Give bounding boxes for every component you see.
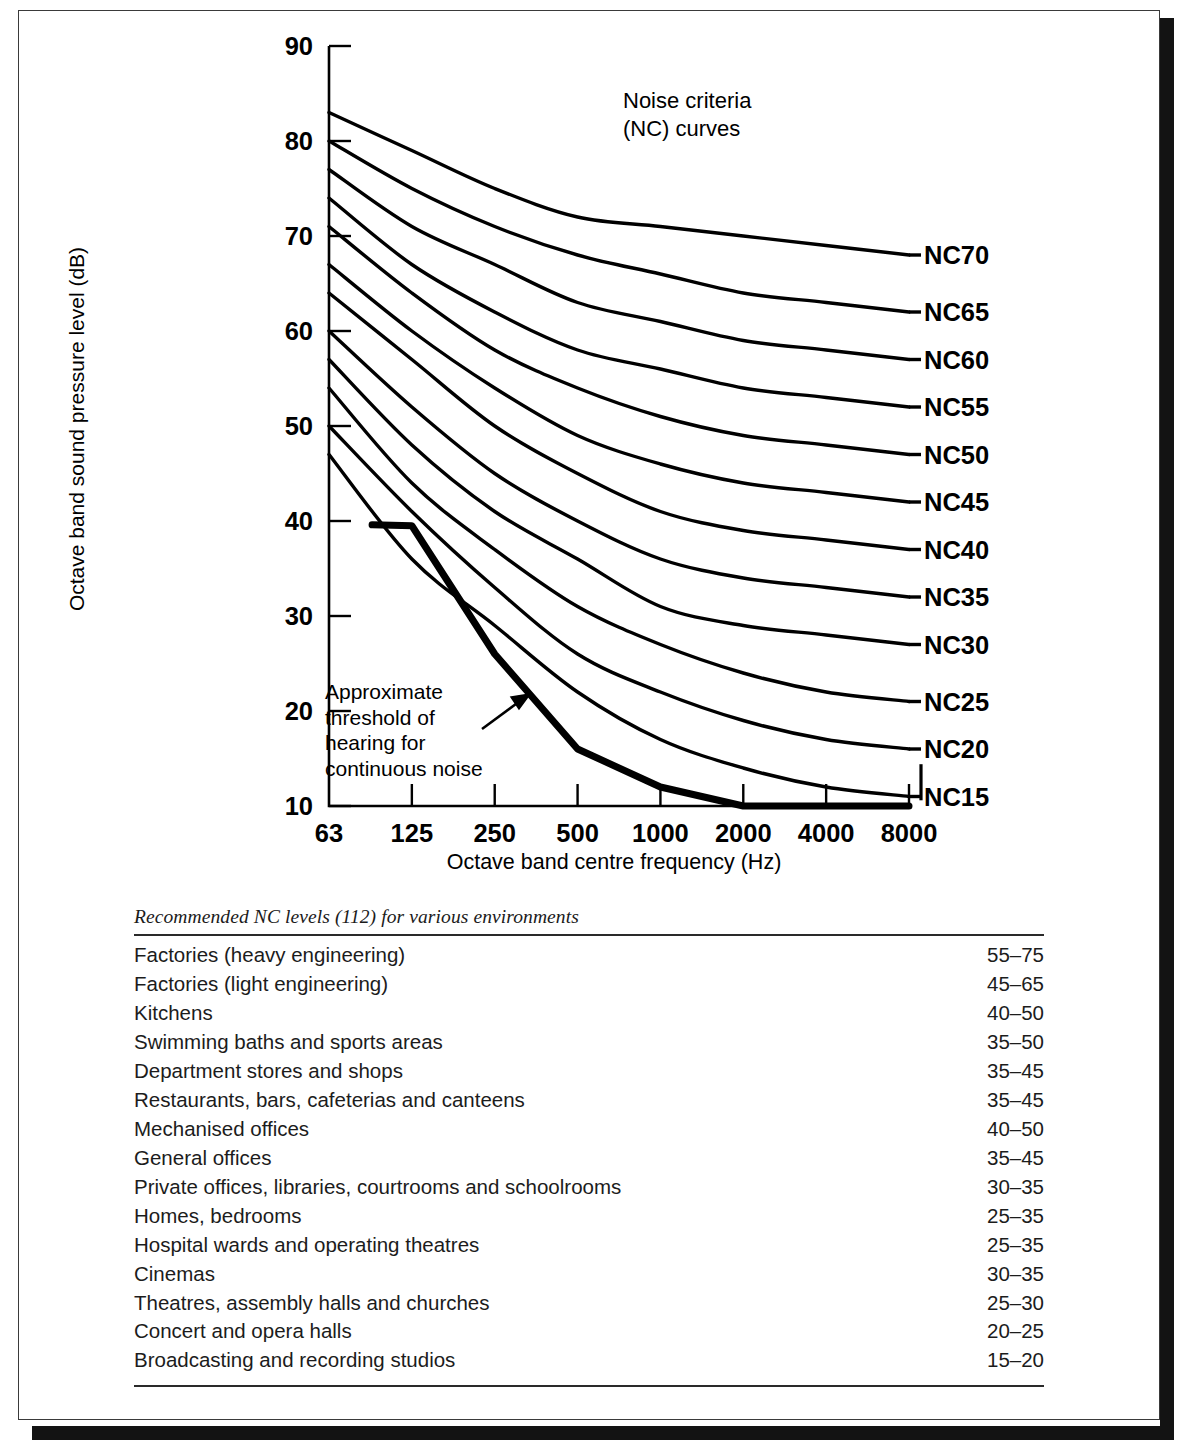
- nc-level-cell: 40–50: [934, 1114, 1044, 1143]
- x-axis-tick-label: 250: [473, 819, 516, 847]
- table-row: Restaurants, bars, cafeterias and cantee…: [134, 1085, 1044, 1114]
- threshold-annotation-line1: Approximate: [325, 679, 483, 705]
- x-axis-tick-label: 125: [391, 819, 434, 847]
- environment-cell: Hospital wards and operating theatres: [134, 1230, 934, 1259]
- nc-curve-label-nc20: NC20: [924, 735, 989, 763]
- x-axis-tick-label: 500: [556, 819, 599, 847]
- nc-level-cell: 30–35: [934, 1172, 1044, 1201]
- table-row: Theatres, assembly halls and churches25–…: [134, 1288, 1044, 1317]
- nc-curve-nc40: [329, 293, 909, 550]
- nc-curve-label-nc35: NC35: [924, 583, 989, 611]
- table-top-rule: [134, 934, 1044, 936]
- nc-level-cell: 25–30: [934, 1288, 1044, 1317]
- nc-level-cell: 30–35: [934, 1259, 1044, 1288]
- nc-curve-label-nc70: NC70: [924, 241, 989, 269]
- page-shadow-bottom: [32, 1426, 1174, 1440]
- table-row: Department stores and shops35–45: [134, 1056, 1044, 1085]
- table-bottom-rule: [134, 1385, 1044, 1387]
- table-row: Cinemas30–35: [134, 1259, 1044, 1288]
- x-axis-tick-label: 63: [315, 819, 343, 847]
- nc-level-cell: 35–45: [934, 1056, 1044, 1085]
- nc-curve-nc45: [329, 265, 909, 503]
- nc-curve-label-nc25: NC25: [924, 688, 989, 716]
- chart-svg: 1020304050607080906312525050010002000400…: [19, 11, 1161, 881]
- nc-curves-chart: 1020304050607080906312525050010002000400…: [19, 11, 1161, 881]
- nc-curve-label-nc50: NC50: [924, 441, 989, 469]
- environment-cell: Theatres, assembly halls and churches: [134, 1288, 934, 1317]
- environment-cell: Concert and opera halls: [134, 1317, 934, 1346]
- table-row: Kitchens40–50: [134, 998, 1044, 1027]
- nc-levels-table: Factories (heavy engineering)55–75Factor…: [134, 940, 1044, 1374]
- environment-cell: Factories (heavy engineering): [134, 940, 934, 969]
- y-axis-tick-label: 90: [285, 32, 313, 60]
- nc-level-cell: 35–45: [934, 1143, 1044, 1172]
- x-axis-tick-label: 1000: [632, 819, 689, 847]
- y-axis-tick-label: 80: [285, 127, 313, 155]
- nc-level-cell: 35–45: [934, 1085, 1044, 1114]
- nc-curve-label-nc65: NC65: [924, 298, 989, 326]
- nc-curve-nc65: [329, 141, 909, 312]
- table-row: Hospital wards and operating theatres25–…: [134, 1230, 1044, 1259]
- page-shadow-right: [1160, 18, 1174, 1440]
- table-row: Swimming baths and sports areas35–50: [134, 1027, 1044, 1056]
- chart-title-line2: (NC) curves: [623, 115, 751, 143]
- nc-curve-label-nc30: NC30: [924, 631, 989, 659]
- nc-level-cell: 20–25: [934, 1317, 1044, 1346]
- nc-level-cell: 25–35: [934, 1201, 1044, 1230]
- y-axis-tick-label: 50: [285, 412, 313, 440]
- y-axis-tick-label: 10: [285, 792, 313, 820]
- threshold-annotation: Approximate threshold of hearing for con…: [325, 679, 483, 781]
- y-axis-tick-label: 60: [285, 317, 313, 345]
- nc-curve-nc50: [329, 227, 909, 455]
- y-axis-tick-label: 70: [285, 222, 313, 250]
- environment-cell: Broadcasting and recording studios: [134, 1346, 934, 1375]
- environment-cell: Swimming baths and sports areas: [134, 1027, 934, 1056]
- recommended-nc-levels-table: Recommended NC levels (112) for various …: [134, 906, 1044, 1387]
- nc-level-cell: 35–50: [934, 1027, 1044, 1056]
- environment-cell: Kitchens: [134, 998, 934, 1027]
- x-axis-tick-label: 8000: [881, 819, 938, 847]
- table-caption: Recommended NC levels (112) for various …: [134, 906, 1044, 934]
- x-axis-tick-label: 4000: [798, 819, 855, 847]
- chart-title-line1: Noise criteria: [623, 87, 751, 115]
- table-row: Factories (light engineering)45–65: [134, 969, 1044, 998]
- y-axis-tick-label: 20: [285, 697, 313, 725]
- y-axis-tick-label: 30: [285, 602, 313, 630]
- nc-level-cell: 45–65: [934, 969, 1044, 998]
- environment-cell: Mechanised offices: [134, 1114, 934, 1143]
- table-row: Homes, bedrooms25–35: [134, 1201, 1044, 1230]
- table-row: Private offices, libraries, courtrooms a…: [134, 1172, 1044, 1201]
- nc-level-cell: 40–50: [934, 998, 1044, 1027]
- page-frame: 1020304050607080906312525050010002000400…: [18, 10, 1160, 1420]
- table-row: General offices35–45: [134, 1143, 1044, 1172]
- environment-cell: Private offices, libraries, courtrooms a…: [134, 1172, 934, 1201]
- table-row: Broadcasting and recording studios15–20: [134, 1346, 1044, 1375]
- environment-cell: General offices: [134, 1143, 934, 1172]
- y-axis-label: Octave band sound pressure level (dB): [65, 204, 89, 654]
- environment-cell: Department stores and shops: [134, 1056, 934, 1085]
- table-row: Mechanised offices40–50: [134, 1114, 1044, 1143]
- environment-cell: Cinemas: [134, 1259, 934, 1288]
- y-axis-tick-label: 40: [285, 507, 313, 535]
- nc-level-cell: 55–75: [934, 940, 1044, 969]
- nc-curve-label-nc15: NC15: [924, 783, 989, 811]
- x-axis-label: Octave band centre frequency (Hz): [309, 850, 919, 875]
- table-row: Factories (heavy engineering)55–75: [134, 940, 1044, 969]
- nc-curve-nc35: [329, 331, 909, 597]
- threshold-annotation-line4: continuous noise: [325, 756, 483, 782]
- environment-cell: Factories (light engineering): [134, 969, 934, 998]
- environment-cell: Restaurants, bars, cafeterias and cantee…: [134, 1085, 934, 1114]
- threshold-annotation-line2: threshold of: [325, 705, 483, 731]
- nc-curve-nc70: [329, 113, 909, 256]
- x-axis-tick-label: 2000: [715, 819, 772, 847]
- nc-curve-nc25: [329, 388, 909, 702]
- environment-cell: Homes, bedrooms: [134, 1201, 934, 1230]
- nc-curve-label-nc45: NC45: [924, 488, 989, 516]
- nc-curve-label-nc55: NC55: [924, 393, 989, 421]
- nc-curve-label-nc60: NC60: [924, 346, 989, 374]
- chart-title: Noise criteria (NC) curves: [623, 87, 751, 143]
- nc-level-cell: 15–20: [934, 1346, 1044, 1375]
- nc-curve-label-nc40: NC40: [924, 536, 989, 564]
- nc-level-cell: 25–35: [934, 1230, 1044, 1259]
- table-row: Concert and opera halls20–25: [134, 1317, 1044, 1346]
